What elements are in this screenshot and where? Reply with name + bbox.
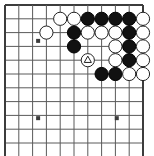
board-grid <box>0 0 154 156</box>
star-point <box>36 116 40 120</box>
go-board-diagram <box>0 0 154 156</box>
star-point <box>115 116 119 120</box>
star-point <box>36 39 40 43</box>
